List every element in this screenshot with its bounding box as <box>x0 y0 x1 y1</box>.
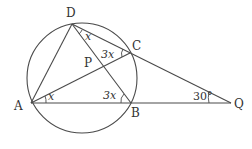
angle-label-AQD: 30° <box>193 90 213 103</box>
angle-label-ABD: 3x <box>103 89 117 102</box>
point-label-Q: Q <box>234 97 244 111</box>
angle-arc-DCA <box>121 49 123 57</box>
angle-label-CAB: x <box>48 90 55 103</box>
point-label-A: A <box>13 99 23 113</box>
angle-arc-CAB <box>45 96 46 103</box>
segment-DB <box>72 24 131 103</box>
angle-label-ADB: x <box>85 30 92 43</box>
angle-arc-ABD <box>121 94 124 103</box>
angle-arc-ADB <box>79 30 82 34</box>
point-label-P: P <box>84 56 92 70</box>
point-label-C: C <box>132 39 141 53</box>
point-label-B: B <box>131 106 140 120</box>
angle-label-DCA: 3x <box>101 48 115 61</box>
geometry-diagram: D C P A B Q x 3x x 3x 30° <box>0 0 252 149</box>
point-label-D: D <box>66 6 76 20</box>
